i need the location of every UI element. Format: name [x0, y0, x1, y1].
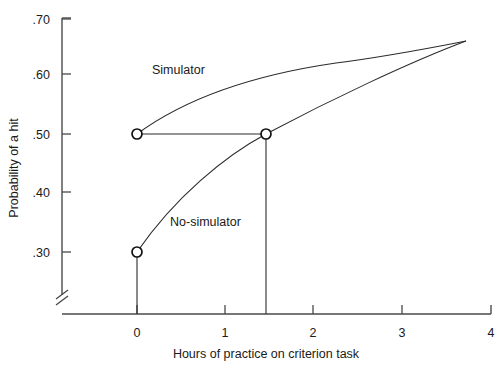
no-simulator-series-label: No-simulator: [170, 215, 241, 229]
y-tick-label-40: .40: [33, 186, 50, 200]
y-axis-title: Probability of a hit: [7, 118, 21, 218]
data-markers: [132, 129, 271, 257]
y-tick-label-70: .70: [33, 13, 50, 27]
marker-no-simulator-at-criterion: [261, 129, 271, 139]
y-tick-labels: .70 .60 .50 .40 .30: [33, 13, 50, 260]
x-tick-label-3: 3: [399, 326, 406, 340]
y-tick-label-50: .50: [33, 128, 50, 142]
chart-figure: .70 .60 .50 .40 .30 0 1 2 3 4: [0, 0, 504, 369]
x-axis-title: Hours of practice on criterion task: [173, 347, 360, 361]
simulator-series-label: Simulator: [152, 63, 205, 77]
marker-no-simulator-start: [132, 247, 142, 257]
x-tick-labels: 0 1 2 3 4: [134, 326, 495, 340]
chart-svg: .70 .60 .50 .40 .30 0 1 2 3 4: [0, 0, 504, 369]
marker-simulator-start: [132, 129, 142, 139]
y-tick-label-30: .30: [33, 246, 50, 260]
x-tick-label-0: 0: [134, 326, 141, 340]
x-tick-label-2: 2: [310, 326, 317, 340]
axes-group: [56, 18, 491, 314]
simulator-curve: [137, 41, 466, 134]
x-tick-label-4: 4: [488, 326, 495, 340]
y-tick-marks: [62, 19, 71, 252]
y-tick-label-60: .60: [33, 68, 50, 82]
x-tick-label-1: 1: [222, 326, 229, 340]
x-tick-marks: [137, 305, 402, 314]
